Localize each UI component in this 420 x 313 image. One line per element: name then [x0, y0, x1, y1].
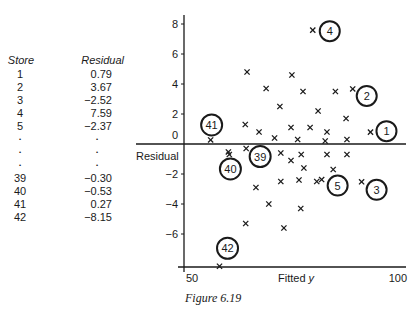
data-point-marker — [296, 177, 301, 182]
y-tick-label: −4 — [165, 198, 178, 210]
data-point-marker — [278, 150, 283, 155]
x-tick-label: 100 — [389, 272, 407, 284]
figure-caption: Figure 6.19 — [185, 291, 241, 306]
point-label-4: 4 — [327, 25, 333, 37]
point-label-1: 1 — [383, 125, 389, 137]
point-label-5: 5 — [335, 180, 341, 192]
data-point-marker — [344, 152, 349, 157]
data-point-marker — [359, 179, 364, 184]
x-axis-label: Fitted y — [278, 272, 316, 284]
y-tick-label: 0 — [172, 129, 178, 141]
data-point-marker — [299, 152, 304, 157]
data-point-marker — [315, 108, 320, 113]
data-point-marker — [333, 89, 338, 94]
data-point-marker — [253, 185, 258, 190]
y-tick-label: 2 — [172, 108, 178, 120]
data-point-marker — [310, 28, 315, 33]
point-label-39: 39 — [254, 151, 266, 163]
data-point-marker — [368, 130, 373, 135]
y-tick-label: 8 — [172, 18, 178, 30]
y-tick-label: 6 — [172, 48, 178, 60]
data-point-marker — [314, 179, 319, 184]
data-point-marker — [289, 72, 294, 77]
residual-scatter-plot: 86420−2−4−6Residual50100Fitted y12345394… — [0, 0, 420, 313]
x-tick-label: 50 — [186, 272, 198, 284]
data-point-marker — [324, 129, 329, 134]
data-point-marker — [323, 138, 328, 143]
data-point-marker — [264, 86, 269, 91]
data-point-marker — [243, 122, 248, 127]
data-point-marker — [244, 69, 249, 74]
data-point-marker — [266, 201, 271, 206]
data-point-marker — [344, 137, 349, 142]
data-point-marker — [217, 264, 222, 269]
data-point-marker — [343, 116, 348, 121]
data-point-marker — [298, 206, 303, 211]
data-point-marker — [243, 221, 248, 226]
data-point-marker — [208, 137, 213, 142]
point-label-41: 41 — [206, 119, 218, 131]
data-point-marker — [307, 125, 312, 130]
point-label-2: 2 — [364, 90, 370, 102]
data-point-marker — [281, 225, 286, 230]
data-point-marker — [350, 86, 355, 91]
data-point-marker — [300, 89, 305, 94]
point-label-40: 40 — [224, 163, 236, 175]
y-tick-label: −2 — [165, 168, 178, 180]
data-point-marker — [331, 167, 336, 172]
data-point-marker — [324, 152, 329, 157]
data-point-marker — [244, 146, 249, 151]
data-point-marker — [277, 104, 282, 109]
y-tick-label: 4 — [172, 78, 178, 90]
y-tick-label: −6 — [165, 228, 178, 240]
data-point-marker — [272, 135, 277, 140]
data-point-marker — [256, 129, 261, 134]
data-point-marker — [301, 165, 306, 170]
point-label-3: 3 — [374, 184, 380, 196]
data-point-marker — [319, 177, 324, 182]
data-point-marker — [295, 137, 300, 142]
data-point-marker — [288, 158, 293, 163]
y-axis-label: Residual — [136, 150, 179, 162]
data-point-marker — [288, 125, 293, 130]
point-label-42: 42 — [221, 242, 233, 254]
data-point-marker — [278, 179, 283, 184]
